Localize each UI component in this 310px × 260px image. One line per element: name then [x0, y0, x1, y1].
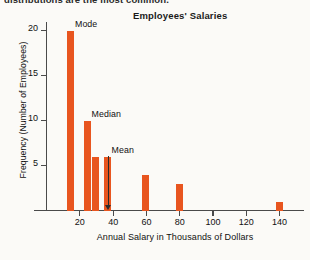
bar: [276, 202, 283, 211]
x-tick: 60: [146, 211, 147, 216]
figure: distributions are the most common. Emplo…: [0, 0, 310, 260]
x-tick-label: 80: [175, 217, 185, 227]
x-axis-line: [34, 210, 304, 211]
x-tick-label: 120: [239, 217, 254, 227]
y-tick-label: 20: [28, 23, 38, 33]
clipped-caption-line: distributions are the most common.: [4, 0, 304, 4]
annotation-mean: Mean: [112, 145, 134, 155]
x-tick: 80: [179, 211, 180, 216]
y-tick-label: 15: [28, 68, 38, 78]
x-tick: 20: [79, 211, 80, 216]
bar: [142, 175, 149, 211]
mean-pointer-line: [108, 156, 109, 205]
y-tick: 15: [41, 75, 46, 76]
annotation-median: Median: [92, 109, 121, 119]
y-axis-line: [46, 22, 47, 211]
y-tick-label: 5: [33, 158, 38, 168]
bar: [67, 31, 74, 211]
plot-area: 5101520 20406080100120140 ModeMedianMean: [46, 22, 304, 211]
x-axis-label: Annual Salary in Thousands of Dollars: [46, 232, 304, 242]
y-tick: 5: [41, 165, 46, 166]
bar: [92, 157, 99, 211]
x-tick-label: 60: [141, 217, 151, 227]
x-tick-label: 140: [272, 217, 287, 227]
x-tick-label: 40: [108, 217, 118, 227]
bar: [176, 184, 183, 211]
annotation-mode: Mode: [75, 19, 97, 29]
x-tick: 120: [246, 211, 247, 216]
chart-title: Employees' Salaries: [133, 10, 227, 21]
x-tick: 40: [113, 211, 114, 216]
y-axis-label: Frequency (Number of Employees): [18, 30, 28, 190]
x-tick-label: 100: [206, 217, 221, 227]
bar: [84, 121, 91, 211]
y-tick: 10: [41, 120, 46, 121]
x-tick: 100: [212, 211, 213, 216]
y-tick-label: 10: [28, 113, 38, 123]
x-tick-label: 20: [75, 217, 85, 227]
x-tick: 140: [279, 211, 280, 216]
mean-pointer-arrowhead: [105, 205, 111, 210]
y-tick: 20: [41, 30, 46, 31]
